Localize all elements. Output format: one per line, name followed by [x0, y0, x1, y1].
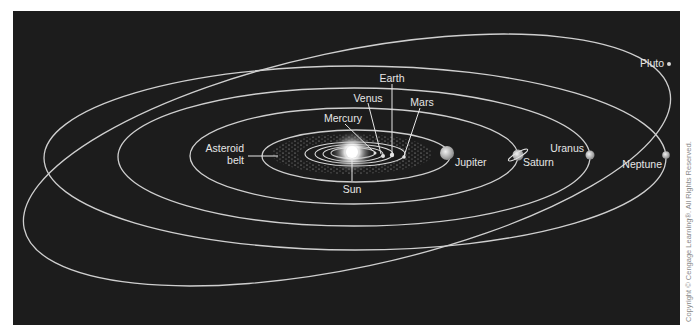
sun — [346, 146, 358, 158]
planet-jupiter — [440, 146, 454, 160]
label-mars: Mars — [410, 96, 433, 108]
label-asteroid-line1: Asteroid — [205, 142, 244, 154]
planet-venus — [381, 154, 385, 158]
label-pluto: Pluto — [640, 57, 664, 69]
label-earth: Earth — [379, 72, 404, 84]
label-neptune: Neptune — [622, 158, 662, 170]
label-sun: Sun — [343, 183, 362, 195]
planet-pluto — [667, 62, 671, 66]
label-venus: Venus — [353, 92, 382, 104]
label-asteroid-line2: belt — [227, 154, 244, 166]
planet-uranus — [586, 151, 595, 160]
label-uranus: Uranus — [550, 142, 584, 154]
planet-earth — [390, 153, 394, 157]
planet-neptune — [662, 151, 670, 159]
label-jupiter: Jupiter — [455, 156, 487, 168]
label-mercury: Mercury — [324, 112, 363, 124]
solar-system-diagram: Earth Venus Mars Mercury Asteroid belt S… — [0, 0, 700, 336]
planet-mercury — [374, 152, 377, 155]
label-saturn: Saturn — [523, 156, 554, 168]
copyright-notice: Copyright © Cengage Learning®. All Right… — [684, 141, 693, 322]
